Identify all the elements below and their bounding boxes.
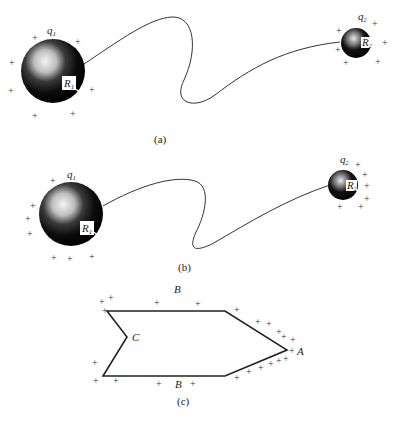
svg-text:+: + — [364, 193, 370, 204]
svg-text:+: + — [92, 357, 98, 368]
diagram-canvas: R1 q1 + + + + + + + R2 q2 + + + + + + (a… — [0, 0, 397, 425]
svg-text:+: + — [75, 36, 81, 47]
svg-text:+: + — [266, 318, 272, 329]
charge-label: q1 — [47, 24, 56, 38]
svg-text:+: + — [375, 56, 381, 67]
svg-text:+: + — [336, 25, 342, 36]
connecting-wire — [103, 179, 330, 248]
sphere-2: R2 q2 — [328, 153, 358, 200]
svg-text:+: + — [335, 44, 341, 55]
svg-text:+: + — [195, 298, 201, 309]
panel-caption: (a) — [154, 133, 167, 146]
svg-text:+: + — [32, 32, 38, 43]
panel-caption: (b) — [178, 261, 191, 274]
connecting-wire — [84, 17, 340, 103]
svg-text:+: + — [8, 85, 14, 96]
point-label-b-bottom: B — [175, 378, 182, 390]
svg-text:+: + — [364, 180, 370, 191]
svg-text:+: + — [190, 378, 196, 389]
svg-text:+: + — [51, 252, 57, 263]
svg-text:+: + — [108, 292, 114, 303]
svg-text:+: + — [283, 353, 289, 364]
sphere-1-body — [21, 39, 85, 103]
svg-text:+: + — [289, 345, 295, 356]
svg-text:+: + — [93, 375, 99, 386]
svg-text:+: + — [234, 304, 240, 315]
charge-label: q2 — [358, 10, 367, 23]
svg-text:+: + — [358, 201, 364, 212]
svg-text:+: + — [50, 175, 56, 186]
charge-label: q1 — [67, 168, 76, 182]
svg-text:+: + — [32, 110, 38, 121]
svg-text:+: + — [258, 362, 264, 373]
svg-text:+: + — [89, 251, 95, 262]
svg-text:+: + — [343, 57, 349, 68]
svg-text:+: + — [113, 375, 119, 386]
svg-text:+: + — [246, 366, 252, 377]
svg-text:+: + — [372, 18, 378, 29]
svg-text:+: + — [70, 108, 76, 119]
svg-text:+: + — [67, 253, 73, 264]
svg-text:+: + — [281, 331, 287, 342]
sphere-2: R2 q2 — [341, 10, 372, 58]
svg-text:+: + — [355, 159, 361, 170]
svg-text:+: + — [102, 305, 108, 316]
point-label-b-top: B — [174, 283, 181, 295]
charge-label: q2 — [340, 153, 349, 166]
point-label-a: A — [296, 345, 304, 357]
panel-caption: (c) — [177, 395, 190, 408]
panel-b: R1 q1 + + + + + + + R2 q2 + + + + + + (b… — [25, 153, 370, 274]
svg-text:+: + — [290, 334, 296, 345]
svg-text:+: + — [276, 355, 282, 366]
sphere-1: R1 q1 — [39, 168, 103, 246]
svg-text:+: + — [30, 200, 36, 211]
panel-c: B C A B + + + + + + + + + + + + + + + + … — [92, 283, 304, 408]
sphere-1-body — [39, 182, 103, 246]
panel-a: R1 q1 + + + + + + + R2 q2 + + + + + + (a… — [8, 10, 388, 146]
svg-text:+: + — [156, 378, 162, 389]
svg-text:+: + — [268, 358, 274, 369]
svg-text:+: + — [362, 169, 368, 180]
svg-text:+: + — [255, 316, 261, 327]
svg-text:+: + — [89, 84, 95, 95]
surface-charges: + + + + + + + + + + + + + + + + + + + + … — [92, 292, 296, 389]
svg-text:+: + — [337, 201, 343, 212]
point-label-c: C — [132, 331, 140, 343]
svg-text:+: + — [154, 297, 160, 308]
svg-text:+: + — [234, 372, 240, 383]
svg-text:+: + — [25, 213, 31, 224]
svg-text:+: + — [27, 228, 33, 239]
svg-text:+: + — [382, 37, 388, 48]
svg-text:+: + — [9, 57, 15, 68]
